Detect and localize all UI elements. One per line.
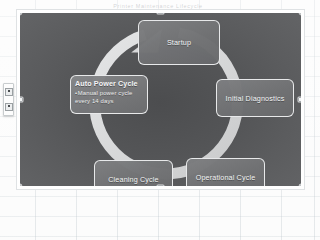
bullet-item: Manual power cycle every 14 days [75,90,143,105]
node-auto-power-cycle[interactable]: Auto Power Cycle Manual power cycle ever… [70,75,148,114]
floating-mini-toolbar[interactable] [3,83,14,116]
handle-top-center[interactable] [157,13,164,14]
handle-bottom-center[interactable] [157,185,164,186]
node-initial-diagnostics[interactable]: Initial Diagnostics [216,79,294,117]
node-cleaning-cycle[interactable]: Cleaning Cycle [94,160,173,186]
node-startup[interactable]: Startup [138,20,220,65]
smartart-canvas[interactable]: Startup Initial Diagnostics Operational … [20,13,301,186]
quick-action-bottom-icon[interactable] [5,103,13,111]
spreadsheet-canvas: Printer Maintenance Lifecycle [0,0,319,199]
node-startup-label: Startup [167,38,191,47]
node-initial-diagnostics-label: Initial Diagnostics [226,94,285,103]
node-auto-power-cycle-title: Auto Power Cycle [75,79,143,88]
sheet-header-text: Printer Maintenance Lifecycle [18,0,298,9]
handle-bottom-right[interactable] [299,184,301,186]
node-cleaning-cycle-label: Cleaning Cycle [108,175,158,184]
handle-middle-right[interactable] [298,97,301,102]
smartart-graphic-frame[interactable]: Startup Initial Diagnostics Operational … [16,9,305,190]
node-operational-cycle-label: Operational Cycle [196,173,256,182]
node-auto-power-cycle-bullets: Manual power cycle every 14 days [75,90,143,105]
node-operational-cycle[interactable]: Operational Cycle [186,158,265,186]
quick-action-top-icon[interactable] [5,88,13,96]
handle-middle-left[interactable] [20,97,23,102]
